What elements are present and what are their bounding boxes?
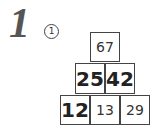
sub-problem-circled-label: 1 [44, 24, 59, 39]
pyramid-bottom-cell-middle: 13 [90, 95, 120, 125]
problem-number: 1 [9, 2, 30, 44]
pyramid-middle-cell-left: 25 [75, 63, 105, 94]
pyramid-middle-cell-right: 42 [105, 63, 135, 94]
pyramid-bottom-cell-right: 29 [120, 95, 150, 125]
pyramid-top-cell: 67 [90, 32, 120, 62]
pyramid-bottom-cell-left: 12 [60, 95, 90, 125]
